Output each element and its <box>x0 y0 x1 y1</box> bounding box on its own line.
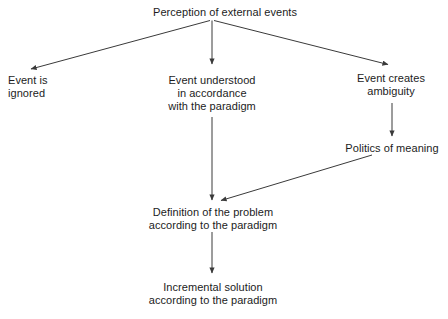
node-text-line: ambiguity <box>357 85 425 98</box>
edge-perception-to-ignored <box>31 21 210 70</box>
node-text-line: Politics of meaning <box>345 142 438 155</box>
node-text-line: Incremental solution <box>149 281 277 294</box>
edge-perception-to-ambiguity <box>214 21 388 65</box>
node-event-understood-in-accordance-with-the-paradigm: Event understood in accordance with the … <box>168 74 256 114</box>
diagram-connectors <box>0 0 448 319</box>
node-text-line: with the paradigm <box>168 100 256 113</box>
node-incremental-solution-according-to-the-paradigm: Incremental solution according to the pa… <box>149 281 277 307</box>
node-text-line: in accordance <box>168 87 256 100</box>
edge-politics-to-definition <box>221 155 372 201</box>
node-text-line: according to the paradigm <box>149 294 277 307</box>
node-text-line: Event understood <box>168 74 256 87</box>
node-politics-of-meaning: Politics of meaning <box>345 142 438 155</box>
node-text-line: Definition of the problem <box>149 206 277 219</box>
node-event-is-ignored: Event is ignored <box>8 74 48 100</box>
node-text-line: according to the paradigm <box>149 219 277 232</box>
node-perception-of-external-events: Perception of external events <box>153 6 297 19</box>
node-text-line: Perception of external events <box>153 6 297 19</box>
node-definition-of-the-problem-according-to-the-paradigm: Definition of the problem according to t… <box>149 206 277 232</box>
node-text-line: Event creates <box>357 72 425 85</box>
node-text-line: Event is <box>8 74 48 87</box>
node-text-line: ignored <box>8 87 48 100</box>
node-event-creates-ambiguity: Event creates ambiguity <box>357 72 425 98</box>
diagram-canvas: Perception of external events Event is i… <box>0 0 448 319</box>
